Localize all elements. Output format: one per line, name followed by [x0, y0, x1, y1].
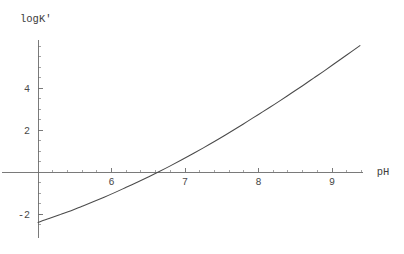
x-tick-label: 8	[255, 177, 261, 188]
logk-vs-ph-line-chart: 6789 -224 logK' pH	[0, 0, 404, 254]
x-axis-title: pH	[377, 166, 390, 178]
x-tick-label: 7	[182, 177, 188, 188]
y-tick-label: -2	[18, 210, 30, 221]
x-axis-tick-labels: 6789	[108, 177, 335, 188]
y-axis-tick-labels: -224	[18, 84, 30, 221]
logk-curve	[38, 46, 360, 223]
y-axis-title: logK'	[20, 13, 52, 25]
x-axis-major-ticks	[112, 168, 333, 172]
x-tick-label: 6	[108, 177, 114, 188]
y-tick-label: 2	[24, 126, 30, 137]
chart-plot-area: 6789 -224 logK' pH	[0, 0, 404, 254]
y-tick-label: 4	[24, 84, 30, 95]
x-tick-label: 9	[329, 177, 335, 188]
